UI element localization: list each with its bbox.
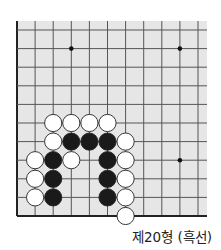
white-stone (117, 133, 134, 150)
black-stone (63, 133, 80, 150)
white-stone (26, 189, 43, 206)
go-board (0, 0, 221, 225)
black-stone (45, 170, 62, 187)
star-point (178, 46, 183, 51)
black-stone (45, 189, 62, 206)
black-stone (45, 152, 62, 169)
white-stone (99, 114, 116, 131)
white-stone (63, 152, 80, 169)
white-stone (117, 170, 134, 187)
white-stone (45, 133, 62, 150)
black-stone (99, 189, 116, 206)
black-stone (99, 152, 116, 169)
white-stone (26, 152, 43, 169)
black-stone (99, 133, 116, 150)
white-stone (81, 114, 98, 131)
white-stone (117, 189, 134, 206)
white-stone (63, 114, 80, 131)
black-stone (81, 133, 98, 150)
white-stone (26, 170, 43, 187)
white-stone (117, 207, 134, 224)
star-point (69, 46, 74, 51)
diagram-caption: 제20형 (흑선) (132, 226, 212, 246)
white-stone (117, 152, 134, 169)
black-stone (99, 170, 116, 187)
star-point (178, 158, 183, 163)
white-stone (45, 114, 62, 131)
